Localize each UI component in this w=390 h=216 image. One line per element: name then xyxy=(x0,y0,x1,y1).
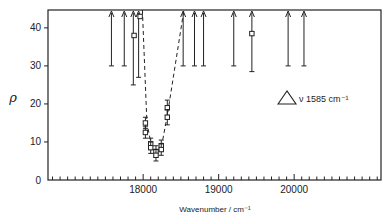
y-tick-label: 30 xyxy=(30,60,42,71)
y-tick-label: 40 xyxy=(30,22,42,33)
lower-limit-arrows xyxy=(109,11,307,85)
annotation: ν 1585 cm⁻¹ xyxy=(278,91,349,104)
x-tick-label: 19000 xyxy=(205,184,233,195)
arrow-up-icon xyxy=(181,11,186,66)
arrow-up-icon xyxy=(286,11,291,66)
arrow-up-icon xyxy=(301,11,306,66)
arrow-up-icon xyxy=(109,11,114,66)
x-axis: 180001900020000 xyxy=(53,174,378,195)
data-point xyxy=(138,14,142,18)
x-tick-label: 18000 xyxy=(129,184,157,195)
y-tick-label: 0 xyxy=(35,175,41,186)
annotation-text: ν 1585 cm⁻¹ xyxy=(299,94,349,104)
arrow-up-icon xyxy=(131,11,136,85)
arrow-up-icon xyxy=(136,11,141,77)
y-tick-label: 10 xyxy=(30,136,42,147)
triangle-icon xyxy=(278,91,296,104)
y-axis-title: ρ xyxy=(8,90,17,105)
dashed-guide-line xyxy=(142,10,184,153)
data-points xyxy=(132,14,254,161)
data-point xyxy=(132,33,136,37)
chart-canvas: 180001900020000 010203040 Wavenumber / c… xyxy=(0,0,390,216)
x-tick-label: 20000 xyxy=(280,184,308,195)
arrow-up-icon xyxy=(192,11,197,66)
y-axis: 010203040 xyxy=(30,22,48,185)
arrow-up-icon xyxy=(231,11,236,66)
data-point xyxy=(250,31,254,35)
arrow-up-icon xyxy=(249,11,254,72)
arrow-up-icon xyxy=(122,11,127,66)
arrow-up-icon xyxy=(201,11,206,66)
y-tick-label: 20 xyxy=(30,98,42,109)
x-axis-title: Wavenumber / cm⁻¹ xyxy=(179,205,251,214)
